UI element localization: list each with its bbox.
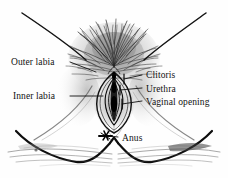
hair-mass-core (84, 32, 144, 76)
anatomical-diagram-figure: Outer labia Inner labia Clitoris Urethra… (0, 0, 228, 178)
label-vaginal-opening: Vaginal opening (146, 97, 210, 107)
label-clitoris: Clitoris (146, 70, 175, 80)
label-inner-labia: Inner labia (13, 91, 55, 101)
label-anus: Anus (122, 133, 142, 143)
diagram-artwork (0, 0, 228, 178)
label-urethra: Urethra (146, 84, 176, 94)
label-outer-labia: Outer labia (11, 57, 55, 67)
